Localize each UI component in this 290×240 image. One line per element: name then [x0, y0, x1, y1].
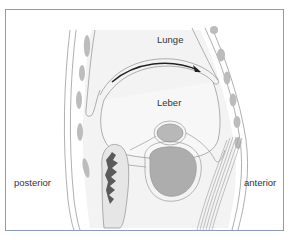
label-posterior: posterior: [14, 177, 51, 188]
kidney: [102, 144, 129, 228]
small-organ: [157, 124, 183, 142]
label-lung: Lunge: [157, 34, 183, 45]
label-anterior: anterior: [244, 177, 276, 188]
sagittal-anatomy-diagram: [0, 0, 290, 240]
label-liver: Leber: [157, 97, 181, 108]
